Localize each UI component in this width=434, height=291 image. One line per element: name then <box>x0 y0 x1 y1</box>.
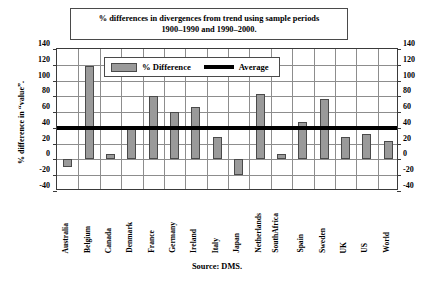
x-category-label-text: Italy <box>212 238 221 253</box>
y-tick-label: 0 <box>400 150 426 158</box>
x-category-label: Ireland <box>184 191 205 253</box>
bar <box>213 137 222 159</box>
axis-tickmark <box>53 96 57 97</box>
y-tick-label: 0 <box>26 150 52 158</box>
y-tick-label: 40 <box>400 119 426 127</box>
x-category-label: SouthAfrica <box>270 191 291 253</box>
axis-tickmark <box>53 128 57 129</box>
y-tick-label: -40 <box>26 182 52 190</box>
y-tick-label: 120 <box>26 56 52 64</box>
axis-tickmark <box>53 81 57 82</box>
x-category-label-text: Sweden <box>319 228 328 253</box>
axis-tickmark <box>53 159 57 160</box>
x-category-label-line-1: Belgium <box>83 226 92 253</box>
x-category-label-text: Australia <box>62 223 71 253</box>
chart-title: % differences in divergences from trend … <box>70 8 348 40</box>
x-category-label-text: Denmark <box>126 222 135 253</box>
x-category-label-text: France <box>148 230 157 253</box>
axis-tickmark <box>397 144 401 145</box>
y-tick-label: 20 <box>400 135 426 143</box>
x-category-label-line-1: Spain <box>296 234 305 253</box>
y-tick-label: 100 <box>400 72 426 80</box>
x-category-label-line-2: Africa <box>271 213 280 234</box>
bar <box>85 66 94 159</box>
y-tick-label: 20 <box>26 135 52 143</box>
source-note: Source: DMS. <box>0 262 434 271</box>
x-category-label-text: Japan <box>233 233 242 253</box>
y-tick-label: 60 <box>26 103 52 111</box>
x-category-label-text: Spain <box>297 234 306 253</box>
axis-tickmark <box>53 112 57 113</box>
chart-figure: % difference in “value”. 140120100806040… <box>0 0 434 291</box>
x-category-label-line-1: World <box>382 232 391 253</box>
x-category-label: Netherlands <box>248 191 269 253</box>
axis-tickmark <box>397 65 401 66</box>
y-tick-label: 140 <box>400 40 426 48</box>
bar <box>277 154 286 160</box>
x-category-label-line-1: Netherlands <box>254 213 263 253</box>
x-category-label-line-1: South <box>271 234 280 253</box>
x-category-label-line-1: Japan <box>232 233 241 253</box>
x-category-label-text: UK <box>340 242 349 253</box>
x-category-label-line-1: Ireland <box>189 229 198 253</box>
legend-label-average: Average <box>239 62 269 72</box>
x-category-label: Sweden <box>313 191 334 253</box>
bar <box>127 129 136 160</box>
x-category-label-line-1: Canada <box>104 228 113 253</box>
y-axis-ticks-left: 140120100806040200-20-40 <box>26 44 52 194</box>
x-axis-category-labels: AustraliaBelgiumCanadaDenmarkFranceGerma… <box>56 191 398 253</box>
chart-title-line-1: % differences in divergences from trend … <box>77 13 341 24</box>
x-category-label-text: Germany <box>169 222 178 253</box>
y-tick-label: 120 <box>400 56 426 64</box>
x-category-label-text: Canada <box>105 228 114 253</box>
bar <box>341 137 350 160</box>
axis-tickmark <box>53 49 57 50</box>
axis-tickmark <box>397 81 401 82</box>
x-category-label-text: World <box>383 232 392 253</box>
y-axis-title: % difference in “value”. <box>17 43 26 203</box>
x-category-label: Spain <box>291 191 312 253</box>
x-category-label: Italy <box>206 191 227 253</box>
y-tick-label: 140 <box>26 40 52 48</box>
y-axis-ticks-right: 140120100806040200-20-40 <box>400 44 426 194</box>
axis-tickmark <box>397 112 401 113</box>
bar <box>234 159 243 175</box>
x-category-label-text: SouthAfrica <box>272 213 280 253</box>
y-tick-label: 60 <box>400 103 426 111</box>
legend-swatch-bar-icon <box>111 63 137 72</box>
bar <box>191 107 200 159</box>
x-category-label-line-1: Italy <box>211 238 220 253</box>
x-category-label-line-1: Sweden <box>318 228 327 253</box>
x-category-label: Belgium <box>77 191 98 253</box>
axis-tickmark <box>53 65 57 66</box>
x-category-label-text: Belgium <box>84 226 93 253</box>
axis-tickmark <box>397 159 401 160</box>
legend-swatch-line-icon <box>204 65 234 69</box>
axis-tickmark <box>53 144 57 145</box>
bar <box>170 112 179 159</box>
axis-tickmark <box>53 175 57 176</box>
x-category-label: Australia <box>56 191 77 253</box>
x-category-label-text: US <box>361 243 370 253</box>
bar <box>384 141 393 160</box>
x-category-label: Denmark <box>120 191 141 253</box>
chart-legend: % Difference Average <box>104 57 280 77</box>
x-category-label: World <box>377 191 398 253</box>
axis-tickmark <box>397 49 401 50</box>
y-tick-label: -20 <box>400 166 426 174</box>
x-category-label: US <box>355 191 376 253</box>
bar <box>106 154 115 160</box>
x-category-label-line-1: Denmark <box>125 222 134 253</box>
x-category-label-line-1: Australia <box>61 223 70 253</box>
y-tick-label: -40 <box>400 182 426 190</box>
x-category-label-text: Netherlands <box>255 213 264 253</box>
x-category-label-line-1: France <box>147 230 156 253</box>
x-category-label-text: Ireland <box>190 229 199 253</box>
x-category-label: Canada <box>99 191 120 253</box>
bar <box>362 134 371 159</box>
x-category-label-line-1: US <box>360 243 369 253</box>
y-tick-label: 80 <box>400 87 426 95</box>
y-tick-label: 100 <box>26 72 52 80</box>
x-category-label: UK <box>334 191 355 253</box>
x-category-label: Japan <box>227 191 248 253</box>
